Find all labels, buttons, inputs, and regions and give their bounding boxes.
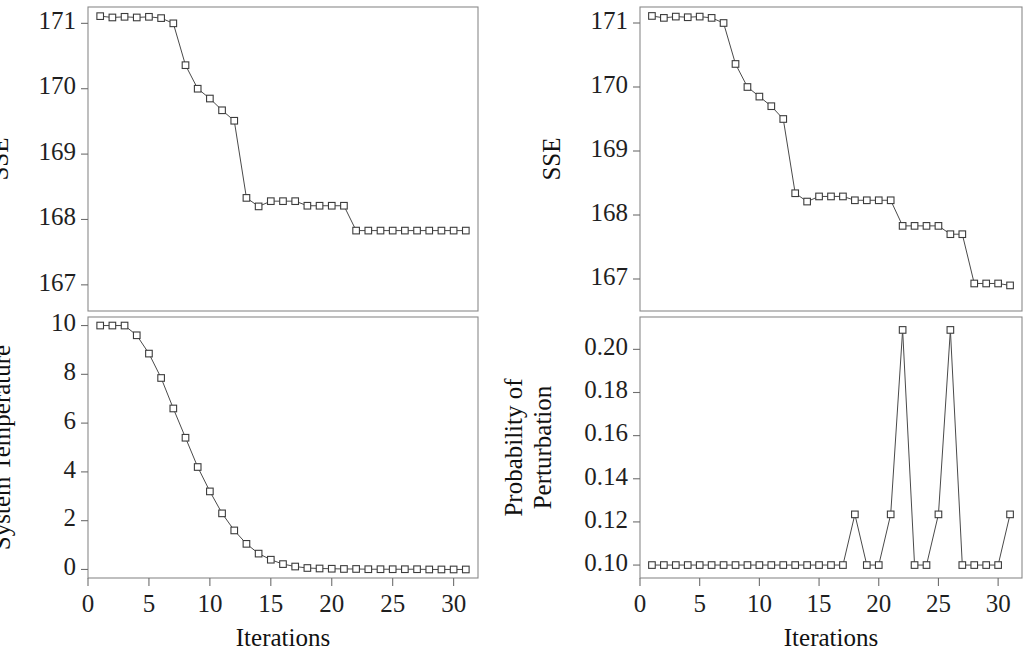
data-point-marker [828,562,835,569]
data-point-marker [840,193,847,200]
series-line [652,330,1010,565]
x-tick-label: 5 [143,590,156,617]
data-point-marker [121,14,128,21]
data-point-marker [804,198,811,205]
left-plots-svg: 167168169170171SSE0246810051015202530Sys… [0,0,511,649]
data-point-marker [756,93,763,100]
data-point-marker [971,562,978,569]
data-point-marker [840,562,847,569]
data-point-marker [959,562,966,569]
data-point-marker [816,193,823,200]
data-point-marker [959,231,966,238]
data-point-marker [365,227,372,234]
data-point-marker [899,223,906,230]
data-point-marker [328,202,335,209]
data-point-marker [463,227,470,234]
data-point-marker [170,405,177,412]
data-point-marker [121,322,128,329]
data-point-marker [852,197,859,204]
data-point-marker [649,13,656,20]
data-point-marker [158,375,165,382]
x-tick-label: 30 [441,590,466,617]
data-point-marker [146,350,153,357]
x-tick-label: 25 [380,590,405,617]
x-tick-label: 0 [82,590,95,617]
y-tick-label: 168 [39,203,77,230]
data-point-marker [804,562,811,569]
data-point-marker [182,434,189,441]
data-point-marker [816,562,823,569]
data-point-marker [426,227,433,234]
plot-frame [640,7,1022,311]
data-point-marker [316,202,323,209]
data-point-marker [661,562,668,569]
data-point-marker [780,116,787,123]
data-point-marker [182,62,189,69]
data-point-marker [341,566,348,573]
data-point-marker [935,223,942,230]
data-point-marker [109,14,116,21]
data-point-marker [328,565,335,572]
y-tick-label: 10 [51,309,76,336]
data-point-marker [935,511,942,518]
data-point-marker [109,322,116,329]
data-point-marker [995,562,1002,569]
data-point-marker [463,566,470,573]
data-point-marker [194,464,201,471]
data-point-marker [231,117,238,124]
y-tick-label: 170 [591,71,629,98]
data-point-marker [219,107,226,114]
data-point-marker [875,562,882,569]
data-point-marker [402,566,409,573]
y-tick-label: 8 [64,358,77,385]
data-point-marker [744,562,751,569]
data-point-marker [947,327,954,334]
data-point-marker [792,562,799,569]
data-point-marker [983,562,990,569]
data-point-marker [995,280,1002,287]
data-point-marker [255,203,262,210]
data-point-marker [673,13,680,20]
y-axis-title-line1: Probability of [500,378,527,517]
data-point-marker [1007,282,1014,289]
data-point-marker [219,510,226,517]
plot-frame [88,7,478,311]
data-point-marker [426,566,433,573]
y-tick-label: 4 [64,456,77,483]
data-point-marker [911,562,918,569]
data-point-marker [292,198,299,205]
data-point-marker [983,280,990,287]
data-point-marker [792,190,799,197]
data-point-marker [911,223,918,230]
data-point-marker [768,562,775,569]
data-point-marker [732,61,739,68]
data-point-marker [414,566,421,573]
data-point-marker [744,84,751,91]
data-point-marker [887,511,894,518]
data-point-marker [864,197,871,204]
plot-frame [640,317,1022,578]
y-tick-label: 171 [39,7,77,34]
x-tick-label: 15 [807,590,832,617]
y-axis-title: SSE [0,137,13,180]
y-tick-label: 0.18 [584,376,628,403]
data-point-marker [377,227,384,234]
data-point-marker [828,193,835,200]
data-point-marker [887,197,894,204]
y-axis-title: SSE [538,137,565,180]
data-point-marker [243,195,250,202]
x-tick-label: 20 [866,590,891,617]
x-axis-title: Iterations [784,624,878,649]
data-point-marker [316,565,323,572]
data-point-marker [649,562,656,569]
data-point-marker [438,227,445,234]
data-point-marker [133,14,140,21]
data-point-marker [231,527,238,534]
data-point-marker [292,563,299,570]
y-tick-label: 169 [39,138,77,165]
x-tick-label: 25 [926,590,951,617]
data-point-marker [732,562,739,569]
x-tick-label: 30 [986,590,1011,617]
y-tick-label: 0.14 [584,463,628,490]
data-point-marker [923,562,930,569]
